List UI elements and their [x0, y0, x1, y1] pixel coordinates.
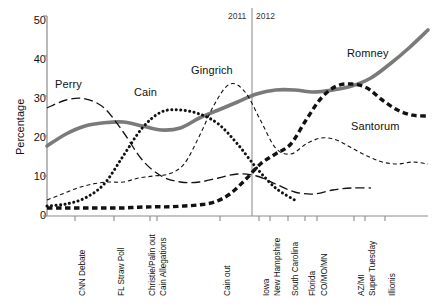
- series-line-cain: [47, 110, 295, 206]
- series-paths: [47, 30, 428, 208]
- plot-area: [0, 0, 435, 306]
- series-line-romney: [47, 30, 428, 146]
- x-axis-ticks: [75, 216, 385, 221]
- chart-container: Percentage 50 40 30 20 10 0 2011 2012 Pe…: [0, 0, 435, 306]
